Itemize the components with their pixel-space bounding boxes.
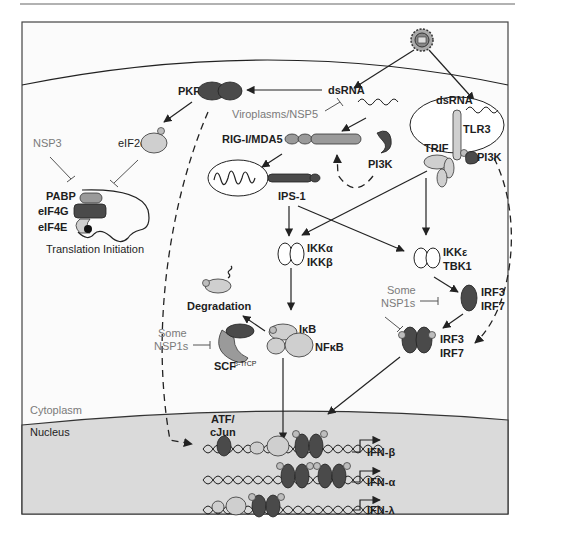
atf-label: ATF/ <box>211 413 235 425</box>
dsrna-endo-label: dsRNA <box>436 94 473 106</box>
ikkb-label: IKKβ <box>307 256 333 268</box>
some-nsp1s-left-label-2: NSP1s <box>154 340 189 352</box>
some-nsp1s-right-label: Some <box>387 284 416 296</box>
some-nsp1s-left-label: Some <box>158 327 187 339</box>
trif-label: TRIF <box>424 142 449 154</box>
irf-monomer <box>461 285 477 311</box>
rotavirus-ifn-signaling-diagram: Cytoplasm Nucleus dsRNA Viroplasms/NSP5 … <box>0 0 570 556</box>
ifn-alpha-label: IFN-α <box>367 476 395 488</box>
nfkb-label: NFκB <box>315 341 344 353</box>
tlr3-protein <box>453 110 461 160</box>
viroplasms-label: Viroplasms/NSP5 <box>232 108 318 120</box>
irf3-a-label: IRF3 <box>481 286 505 298</box>
cytoplasm-label: Cytoplasm <box>30 404 82 416</box>
irf7-b-label: IRF7 <box>440 347 464 359</box>
ikb-label: IκB <box>299 323 316 335</box>
rig-mda5-label: RIG-I/MDA5 <box>222 133 283 145</box>
eif4g-label: eIF4G <box>38 205 69 217</box>
eif4e-label: eIF4E <box>38 221 67 233</box>
scf-sup-label: β-TrCP <box>234 360 257 368</box>
irf7-a-label: IRF7 <box>481 300 505 312</box>
pi3k-cyto-label: PI3K <box>368 158 393 170</box>
ips1-protein <box>268 174 312 182</box>
nucleus-label: Nucleus <box>30 426 70 438</box>
phosphate-icon <box>158 128 165 135</box>
pabp-label: PABP <box>46 190 76 202</box>
translation-label: Translation Initiation <box>46 243 144 255</box>
pkr-protein <box>198 82 242 100</box>
mitochondrion-icon <box>208 160 268 196</box>
irf3-b-label: IRF3 <box>440 333 464 345</box>
nucleus-region <box>22 411 508 514</box>
scf-label: SCF <box>214 360 236 372</box>
some-nsp1s-right-label-2: NSP1s <box>381 297 416 309</box>
ikka-label: IKKα <box>307 242 333 254</box>
tlr3-label: TLR3 <box>463 123 491 135</box>
nsp3-label: NSP3 <box>33 137 62 149</box>
tbk1-label: TBK1 <box>443 260 472 272</box>
ikke-label: IKKε <box>443 246 468 258</box>
virus-icon <box>411 29 433 51</box>
ifn-lambda-label: IFN-λ <box>367 504 395 516</box>
dsrna-cyto-label: dsRNA <box>328 84 365 96</box>
eif2a-protein <box>141 133 167 153</box>
degradation-label: Degradation <box>187 300 251 312</box>
ips1-label: IPS-1 <box>278 190 306 202</box>
ifn-beta-label: IFN-β <box>367 446 395 458</box>
pi3k-endo-label: PI3K <box>477 151 502 163</box>
rig-mda5-protein <box>285 134 361 144</box>
